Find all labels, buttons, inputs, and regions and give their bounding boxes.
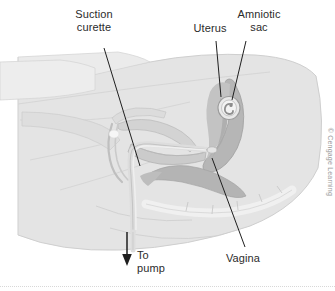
bottom-divider xyxy=(0,286,335,288)
anatomy-illustration xyxy=(0,0,335,291)
label-suction-curette: Suction curette xyxy=(56,8,132,33)
anatomy-figure: Suction curette Uterus Amniotic sac Vagi… xyxy=(0,0,335,291)
label-amniotic-sac: Amniotic sac xyxy=(226,8,292,33)
label-vagina: Vagina xyxy=(226,252,296,265)
label-to-pump: To pump xyxy=(137,249,193,274)
amniotic-sac xyxy=(218,97,240,120)
copyright-credit: © Cengage Learning xyxy=(327,128,334,196)
